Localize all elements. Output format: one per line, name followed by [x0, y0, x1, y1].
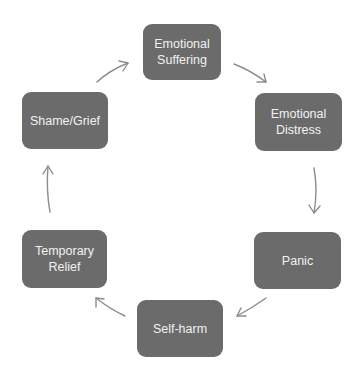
node-label-line1: Panic [282, 253, 313, 269]
node-label-line1: Emotional [271, 106, 327, 122]
node-shame-grief: Shame/Grief [22, 92, 108, 149]
arrow-relief-to-shame [43, 166, 53, 212]
node-label-line1: Shame/Grief [30, 113, 100, 129]
node-label-line1: Self-harm [153, 321, 207, 337]
node-temporary-relief: Temporary Relief [22, 230, 107, 288]
arrow-selfharm-to-relief [96, 298, 125, 316]
node-label-line1: Emotional [154, 36, 210, 52]
node-label-line1: Temporary [35, 243, 94, 259]
node-emotional-distress: Emotional Distress [255, 93, 342, 151]
arrow-distress-to-panic [309, 168, 320, 213]
arrow-suffering-to-distress [234, 64, 266, 82]
node-label-line2: Relief [35, 259, 94, 275]
node-emotional-suffering: Emotional Suffering [143, 24, 221, 80]
node-label-line2: Suffering [154, 52, 210, 68]
arrow-panic-to-selfharm [237, 298, 266, 316]
node-panic: Panic [254, 232, 341, 289]
node-self-harm: Self-harm [137, 300, 223, 357]
node-label-line2: Distress [271, 122, 327, 138]
arrow-shame-to-suffering [97, 61, 128, 82]
